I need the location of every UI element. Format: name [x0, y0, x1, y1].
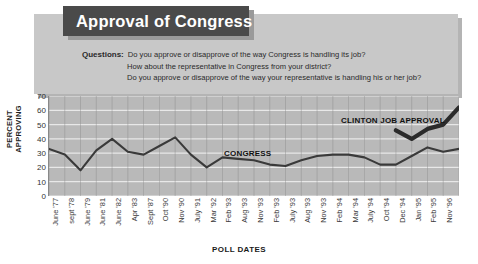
y-tick-label: 30	[22, 149, 46, 158]
page-title: Approval of Congress	[63, 12, 252, 31]
question-text-2: How about the representative in Congress…	[127, 61, 331, 73]
x-tick-label: June '77	[51, 198, 60, 226]
x-tick-label: Nov '93	[319, 198, 328, 223]
x-axis-ticks: June '77sept '78June '79June '81June '82…	[48, 198, 458, 242]
x-tick-label: Feb '95	[429, 198, 438, 222]
question-text-1: Do you approve or disapprove of the way …	[128, 49, 366, 61]
questions-block: Questions: Do you approve or disapprove …	[82, 49, 432, 84]
x-tick-label: June '81	[98, 198, 107, 226]
x-tick-label: Apr '83	[130, 198, 139, 221]
plot-area	[48, 96, 459, 196]
title-bar: Approval of Congress	[63, 6, 249, 36]
x-tick-label: June '79	[83, 198, 92, 226]
y-tick-label: 40	[22, 134, 46, 143]
y-tick-label: 70	[22, 92, 46, 101]
x-tick-label: Oct '90	[161, 198, 170, 221]
chart-figure: Approval of Congress Questions: Do you a…	[0, 0, 478, 264]
series-label-congress: CONGRESS	[224, 149, 271, 158]
y-axis-ticks: 010203040506070	[22, 90, 46, 202]
x-tick-label: Nov '96	[445, 198, 454, 223]
x-tick-label: Feb '94	[335, 198, 344, 222]
series-label-clinton: CLINTON JOB APPROVAL	[341, 116, 445, 125]
x-tick-label: sept '78	[67, 198, 76, 224]
chart-canvas	[49, 96, 459, 196]
y-tick-label: 50	[22, 120, 46, 129]
x-tick-label: Sept '87	[146, 198, 155, 225]
question-row-2: How about the representative in Congress…	[127, 61, 432, 73]
x-tick-label: July '94	[366, 198, 375, 223]
x-tick-label: Feb '93	[272, 198, 281, 222]
x-tick-label: Oct '94	[382, 198, 391, 221]
x-tick-label: Mar '94	[351, 198, 360, 222]
x-tick-label: Mar '92	[209, 198, 218, 222]
x-tick-label: Jan '95	[414, 198, 423, 222]
x-tick-label: Aug '93	[240, 198, 249, 223]
x-tick-label: Nov '90	[177, 198, 186, 223]
x-tick-label: June '82	[114, 198, 123, 226]
questions-label: Questions:	[82, 49, 124, 61]
question-row-3: Do you approve or disapprove of the way …	[127, 72, 432, 84]
y-tick-label: 10	[22, 177, 46, 186]
x-tick-label: Aug '93	[303, 198, 312, 223]
x-tick-label: Dec '94	[398, 198, 407, 223]
question-text-3: Do you approve or disapprove of the way …	[127, 72, 421, 84]
x-axis-title: POLL DATES	[0, 245, 478, 254]
x-tick-label: July '93	[288, 198, 297, 223]
y-tick-label: 0	[22, 192, 46, 201]
x-tick-label: Nov '93	[256, 198, 265, 223]
y-tick-label: 20	[22, 163, 46, 172]
y-axis-title: PERCENT APPROVING	[5, 89, 23, 169]
x-tick-label: Feb '93	[224, 198, 233, 222]
question-row-1: Questions: Do you approve or disapprove …	[82, 49, 432, 61]
y-tick-label: 60	[22, 106, 46, 115]
x-tick-label: July '91	[193, 198, 202, 223]
